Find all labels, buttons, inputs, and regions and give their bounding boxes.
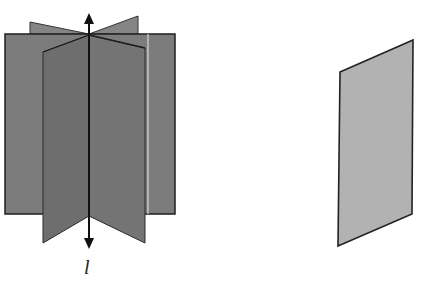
axis-label-l: l [84,256,90,278]
single-plane [338,40,413,246]
single-plane-figure [338,40,413,246]
front-right-plane [89,35,145,243]
front-left-plane [43,35,89,243]
diagram-canvas: l [0,0,443,291]
arrow-up-icon [84,13,94,24]
back-right-wing [89,16,138,34]
back-left-wing [30,22,89,34]
arrow-down-icon [84,238,94,249]
plane-pencil-figure: l [5,13,175,278]
